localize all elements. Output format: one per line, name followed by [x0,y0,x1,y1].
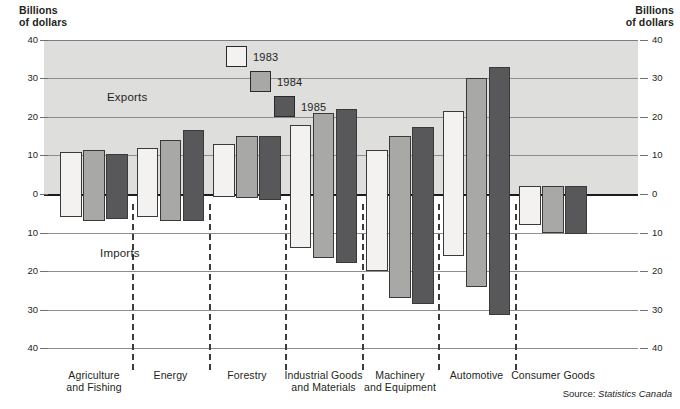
category-divider-5 [515,204,517,370]
band-label-imports: Imports [100,247,140,259]
ytick-left-20-6: 20 [16,266,38,276]
bar-1983-group-3 [290,125,312,248]
ytick-dash-right-1 [640,78,648,79]
bar-1983-group-0 [60,152,82,218]
bar-1983-group-6 [519,186,541,225]
legend-item-1984: 1984 [250,71,302,92]
category-divider-3 [362,204,364,370]
band-label-exports: Exports [107,91,147,103]
ytick-dash-left-7 [40,310,48,311]
ytick-left-30-7: 30 [16,305,38,315]
ytick-dash-right-3 [640,155,648,156]
ytick-right-0-4: 0 [652,189,674,199]
ytick-right-10-5: 10 [652,228,674,238]
ytick-left-10-5: 10 [16,228,38,238]
ytick-right-30-1: 30 [652,73,674,83]
bar-1985-group-3 [336,109,358,263]
legend-swatch-1984 [250,71,271,92]
bar-1985-group-5 [489,67,511,316]
bar-1984-group-3 [313,113,335,258]
source-name: Statistics Canada [598,388,672,399]
source-prefix: Source: [563,388,598,399]
ytick-left-20-2: 20 [16,112,38,122]
ytick-left-30-1: 30 [16,73,38,83]
bar-1984-group-4 [389,136,411,298]
ytick-left-10-3: 10 [16,150,38,160]
legend-label-1983: 1983 [253,51,278,63]
legend-item-1983: 1983 [226,46,278,67]
gridline-40 [44,40,638,41]
category-divider-0 [132,204,134,370]
ytick-dash-right-7 [640,310,648,311]
bar-1983-group-1 [137,148,159,217]
source-note: Source: Statistics Canada [563,388,672,399]
bar-1984-group-1 [160,140,182,221]
ytick-left-40-8: 40 [16,343,38,353]
ytick-left-40-0: 40 [16,35,38,45]
ytick-right-40-0: 40 [652,35,674,45]
ytick-dash-left-8 [40,348,48,349]
legend-label-1984: 1984 [277,76,302,88]
ytick-dash-right-5 [640,233,648,234]
ytick-right-30-7: 30 [652,305,674,315]
legend-item-1985: 1985 [274,96,326,117]
bar-1983-group-5 [443,111,465,256]
ytick-dash-right-4 [640,194,648,195]
right-axis-caption: Billions of dollars [626,5,674,28]
ytick-dash-left-6 [40,271,48,272]
ytick-dash-right-6 [640,271,648,272]
left-axis-caption: Billions of dollars [19,5,67,28]
bar-1983-group-4 [366,150,388,271]
ytick-right-20-6: 20 [652,266,674,276]
bar-1984-group-5 [466,78,488,286]
ytick-dash-left-5 [40,233,48,234]
category-divider-1 [209,204,211,370]
bar-1984-group-6 [542,186,564,232]
legend-swatch-1983 [226,46,247,67]
category-divider-4 [438,204,440,370]
category-divider-2 [285,204,287,370]
ytick-right-40-8: 40 [652,343,674,353]
ytick-dash-right-0 [640,40,648,41]
ytick-dash-left-0 [40,40,48,41]
ytick-dash-left-3 [40,155,48,156]
bar-1984-group-0 [83,150,105,221]
bar-1985-group-1 [183,130,205,221]
ytick-left-0-4: 0 [16,189,38,199]
legend-swatch-1985 [274,96,295,117]
ytick-right-10-3: 10 [652,150,674,160]
ytick-dash-right-8 [640,348,648,349]
ytick-dash-left-4 [40,194,48,195]
legend-label-1985: 1985 [301,101,326,113]
ytick-right-20-2: 20 [652,112,674,122]
bar-1985-group-0 [106,154,128,220]
bar-1984-group-2 [236,136,258,198]
ytick-dash-left-2 [40,117,48,118]
trade-balance-chart: Billions of dollars Billions of dollars … [0,0,680,409]
category-label-6: Consumer Goods [498,369,608,381]
ytick-dash-right-2 [640,117,648,118]
bar-1985-group-6 [565,186,587,234]
bar-1985-group-2 [259,136,281,200]
ytick-dash-left-1 [40,78,48,79]
bar-1983-group-2 [213,144,235,197]
plot-area [44,40,638,348]
gridline-30 [44,78,638,79]
bar-1985-group-4 [412,127,434,304]
